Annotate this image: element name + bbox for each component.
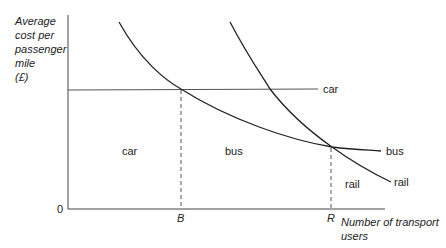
rail-region-label: rail bbox=[345, 178, 360, 190]
bus-curve-label: bus bbox=[386, 145, 404, 157]
svg-text:Number of transport: Number of transport bbox=[341, 216, 440, 228]
car-region-label: car bbox=[122, 145, 138, 157]
car-cost-line bbox=[68, 89, 318, 90]
r-marker-label: R bbox=[327, 212, 335, 224]
svg-text:(£): (£) bbox=[15, 71, 29, 83]
svg-text:mile: mile bbox=[15, 57, 35, 69]
x-axis-label: Number of transport users bbox=[341, 216, 440, 242]
y-axis-label: Average cost per passenger mile (£) bbox=[14, 15, 68, 83]
svg-text:cost per: cost per bbox=[15, 29, 55, 41]
transport-cost-diagram: Average cost per passenger mile (£) 0 ca… bbox=[0, 0, 446, 248]
bus-region-label: bus bbox=[225, 145, 243, 157]
svg-text:passenger: passenger bbox=[14, 43, 68, 55]
origin-label: 0 bbox=[57, 203, 63, 215]
rail-cost-curve bbox=[230, 22, 391, 182]
bus-cost-curve bbox=[119, 22, 381, 151]
car-line-label: car bbox=[323, 83, 339, 95]
rail-curve-label: rail bbox=[394, 176, 409, 188]
svg-text:users: users bbox=[341, 230, 368, 242]
b-marker-label: B bbox=[177, 212, 184, 224]
svg-text:Average: Average bbox=[14, 15, 56, 27]
